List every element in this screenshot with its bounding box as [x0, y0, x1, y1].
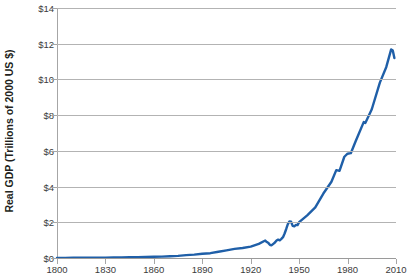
y-tick-label-4: $4 [18, 181, 54, 192]
y-tick-label-0: $0 [18, 253, 54, 264]
gdp-line-chart: Real GDP (Trillions of 2000 US $) $0$2$4… [0, 0, 416, 279]
y-tick-label-6: $6 [18, 145, 54, 156]
gridline-y-6 [57, 151, 396, 152]
gridline-y-14 [57, 8, 396, 9]
x-tick-label-1920: 1920 [240, 264, 261, 275]
y-tick-label-8: $8 [18, 110, 54, 121]
gridline-y-8 [57, 115, 396, 116]
x-tick-label-1980: 1980 [337, 264, 358, 275]
x-tick-label-1890: 1890 [192, 264, 213, 275]
y-tick-mark-6 [51, 151, 57, 152]
gridline-y-10 [57, 79, 396, 80]
gridline-y-12 [57, 44, 396, 45]
x-tick-label-1800: 1800 [46, 264, 67, 275]
y-tick-mark-14 [51, 8, 57, 9]
plot-area [57, 8, 396, 258]
y-tick-mark-12 [51, 44, 57, 45]
y-tick-label-2: $2 [18, 217, 54, 228]
gridline-y-0 [57, 258, 396, 259]
series-line-gdp [57, 8, 396, 258]
y-tick-mark-4 [51, 187, 57, 188]
x-tick-label-1830: 1830 [95, 264, 116, 275]
y-tick-mark-8 [51, 115, 57, 116]
x-tick-label-2010: 2010 [385, 264, 406, 275]
y-tick-label-10: $10 [18, 74, 54, 85]
x-tick-label-1950: 1950 [289, 264, 310, 275]
y-tick-mark-2 [51, 222, 57, 223]
gridline-y-2 [57, 222, 396, 223]
y-tick-label-14: $14 [18, 3, 54, 14]
x-tick-label-1860: 1860 [143, 264, 164, 275]
gridline-y-4 [57, 187, 396, 188]
y-tick-mark-10 [51, 79, 57, 80]
y-tick-label-12: $12 [18, 38, 54, 49]
y-axis-tick-labels: $0$2$4$6$8$10$12$14 [14, 0, 54, 279]
